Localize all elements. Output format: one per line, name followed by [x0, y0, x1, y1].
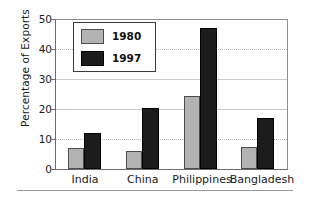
y-tick-label-50: 50: [26, 14, 52, 25]
bar-bangladesh-1997: [257, 118, 274, 169]
bar-group-bangladesh: [229, 19, 287, 169]
bar-india-1980: [68, 148, 84, 169]
bar-philippines-1997: [200, 28, 217, 169]
bar-group-philippines: [172, 19, 230, 169]
bar-china-1980: [126, 151, 142, 169]
x-label-bangladesh: Bangladesh: [228, 173, 296, 186]
x-label-china: China: [114, 173, 172, 186]
legend-label-1980: 1980: [112, 30, 141, 43]
bar-bangladesh-1980: [241, 147, 257, 170]
black-swatch-icon: [81, 51, 104, 66]
legend-entry-1997: 1997: [81, 50, 151, 67]
y-tick-label-20: 20: [26, 104, 52, 115]
gray-swatch-icon: [81, 29, 104, 44]
legend-label-1997: 1997: [112, 52, 141, 65]
bar-india-1997: [84, 133, 101, 169]
bar-china-1997: [142, 108, 159, 170]
y-tick-label-40: 40: [26, 44, 52, 55]
y-tick-label-30: 30: [26, 74, 52, 85]
x-label-philippines: Philippines: [170, 173, 234, 186]
figure-bottom-rule: [17, 190, 293, 191]
chart-legend: 1980 1997: [73, 22, 156, 72]
x-label-india: India: [56, 173, 114, 186]
y-tick-label-0: 0: [26, 164, 52, 175]
y-tick-label-10: 10: [26, 134, 52, 145]
bar-philippines-1980: [184, 96, 200, 170]
bar-chart-figure: Percentage of Exports 50 40 30 20 10 0: [0, 0, 310, 199]
legend-entry-1980: 1980: [81, 28, 151, 45]
